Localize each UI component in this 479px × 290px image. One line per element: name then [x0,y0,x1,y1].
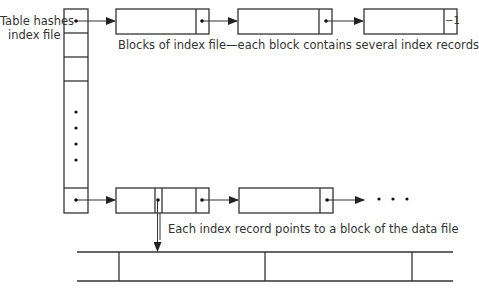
end-of-chain-marker: −1 [445,15,460,26]
index-blocks-caption: Blocks of index file—each block contains… [118,39,479,53]
hash-table-label-line2: index file [0,29,60,43]
data-file-blocks [77,252,453,281]
hash-table-label: Table hashes index file [0,15,60,43]
top-index-block-chain [116,9,457,34]
pointer-arrows [76,21,364,251]
hash-table-label-line1: Table hashes [0,15,60,29]
record-pointer-caption: Each index record points to a block of t… [168,223,458,237]
